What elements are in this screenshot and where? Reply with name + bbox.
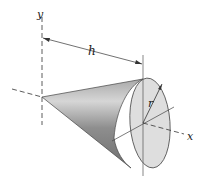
height-arrow-left xyxy=(43,38,50,42)
y-axis-label: y xyxy=(36,8,44,21)
radius-label: r xyxy=(148,97,154,110)
x-axis-label: x xyxy=(187,130,194,143)
cone-base xyxy=(127,77,173,170)
cone-surface xyxy=(42,79,143,168)
cone-diagram: y h r x xyxy=(0,0,205,188)
height-label: h xyxy=(88,44,96,58)
height-arrow-right xyxy=(135,60,142,64)
x-axis-back-line xyxy=(12,89,42,97)
